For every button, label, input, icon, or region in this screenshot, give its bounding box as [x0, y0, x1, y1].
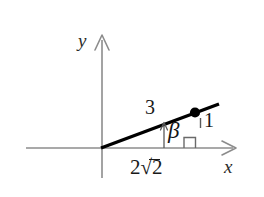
- y-axis-label: y: [78, 31, 86, 50]
- math-figure: y x 3 β 1 2√2: [0, 0, 264, 197]
- label-vertical-leg: 1: [204, 110, 214, 130]
- x-axis-label: x: [224, 157, 232, 176]
- ray-line: [101, 104, 219, 148]
- label-adjacent-side: 2√2: [130, 157, 163, 178]
- adjacent-coefficient: 2: [130, 155, 141, 179]
- radical-vinculum: [149, 159, 160, 160]
- square-root-group: √2: [141, 157, 163, 178]
- label-opposite-side: 3: [145, 97, 155, 117]
- right-angle-square: [184, 138, 196, 149]
- label-angle-beta: β: [168, 119, 179, 142]
- point-marker-dot: [190, 107, 200, 117]
